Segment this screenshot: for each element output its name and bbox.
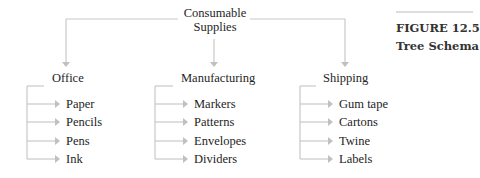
leaf-node: Envelopes: [194, 134, 246, 148]
branch-shipping: Shipping: [323, 71, 368, 85]
leaf-node: Pens: [66, 134, 90, 148]
root-label-line1: Consumable: [170, 6, 260, 20]
root-label-line2: Supplies: [170, 20, 260, 34]
leaf-node: Markers: [194, 97, 236, 111]
leaf-node: Pencils: [66, 115, 102, 129]
leaf-node: Labels: [339, 152, 372, 166]
leaf-node: Patterns: [194, 115, 234, 129]
leaf-node: Twine: [339, 134, 370, 148]
leaf-node: Dividers: [194, 152, 237, 166]
leaf-node: Ink: [66, 152, 83, 166]
leaf-node: Cartons: [339, 115, 378, 129]
branch-manufacturing: Manufacturing: [181, 71, 255, 85]
figure-number: FIGURE 12.5: [396, 21, 480, 35]
root-node: Consumable Supplies: [170, 6, 260, 34]
leaf-node: Paper: [66, 97, 94, 111]
branch-office: Office: [52, 71, 84, 85]
figure-title: Tree Schema: [396, 39, 479, 53]
leaf-node: Gum tape: [339, 97, 388, 111]
